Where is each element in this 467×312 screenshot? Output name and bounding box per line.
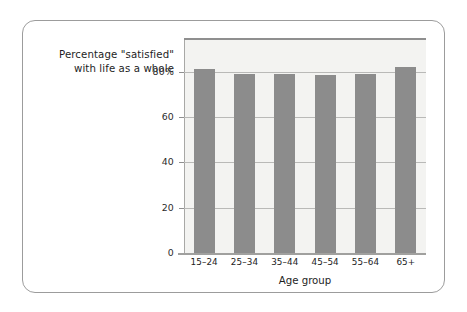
figure-root: Percentage "satisfied" with life as a wh… bbox=[0, 0, 467, 312]
y-axis-tick-mark bbox=[179, 162, 184, 163]
gridline bbox=[184, 162, 426, 163]
y-axis-tick-label: 80% bbox=[140, 66, 174, 77]
bar bbox=[315, 75, 336, 253]
bar bbox=[395, 67, 416, 253]
bar bbox=[274, 74, 295, 253]
y-axis-tick-mark bbox=[179, 208, 184, 209]
bar bbox=[234, 74, 255, 253]
x-axis-tick-label: 15–24 bbox=[184, 257, 224, 267]
y-axis-tick-mark bbox=[179, 72, 184, 73]
x-axis-title: Age group bbox=[184, 275, 426, 286]
y-axis-tick-label: 20 bbox=[140, 202, 174, 213]
bar bbox=[194, 69, 215, 253]
x-axis-tick-label: 45–54 bbox=[305, 257, 345, 267]
x-axis-line bbox=[178, 253, 426, 255]
y-axis-tick-label: 60 bbox=[140, 111, 174, 122]
gridline bbox=[184, 117, 426, 118]
bar bbox=[355, 74, 376, 253]
gridline bbox=[184, 208, 426, 209]
y-axis-tick-label: 40 bbox=[140, 156, 174, 167]
x-axis-tick-label: 25–34 bbox=[224, 257, 264, 267]
y-axis-tick-mark bbox=[179, 117, 184, 118]
x-axis-tick-label: 55–64 bbox=[345, 257, 385, 267]
gridline bbox=[184, 72, 426, 73]
x-axis-tick-label: 65+ bbox=[386, 257, 426, 267]
x-axis-tick-label: 35–44 bbox=[265, 257, 305, 267]
y-axis-tick-label: 0 bbox=[140, 247, 174, 258]
